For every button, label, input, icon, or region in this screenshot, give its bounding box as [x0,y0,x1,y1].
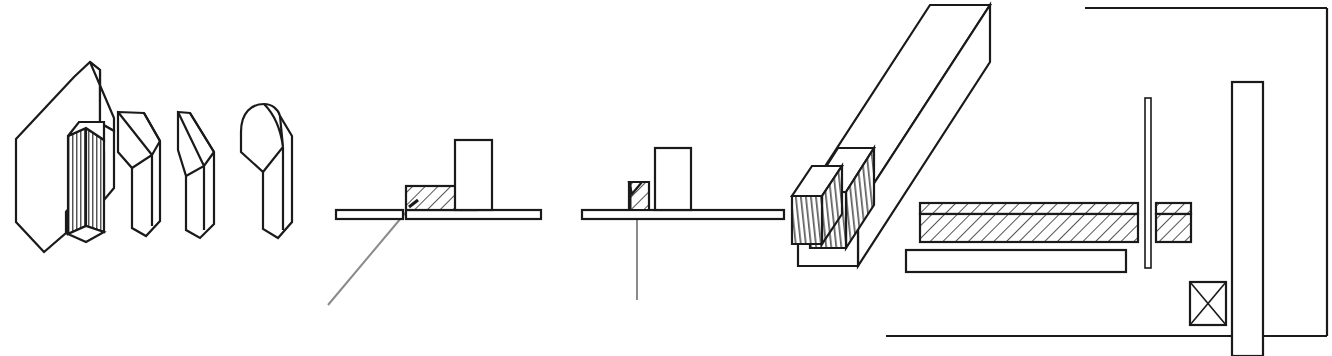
front-block-left-face [792,196,822,244]
short-hatched-block-cap-strip [1156,203,1191,214]
long-hatched-bar-cap-strip [920,203,1138,214]
section-left-plate-right [406,210,541,219]
thin-vertical-sliver [1145,98,1151,268]
section-right-plate [582,210,784,219]
drawing-sheet: Technical line drawing sheet [0,0,1332,356]
tall-vertical-bar [1232,82,1263,356]
plain-bar [906,250,1126,272]
drawing-canvas [0,0,1332,356]
ribbed-post-right-face [86,128,104,232]
section-left-upright-rect [455,140,492,210]
short-hatched-block-body [1156,214,1191,242]
section-left-plate-left [336,210,403,219]
ribbed-post-front-face [68,128,86,234]
section-right-upright-rect [655,148,691,210]
long-hatched-bar-body [920,214,1138,242]
